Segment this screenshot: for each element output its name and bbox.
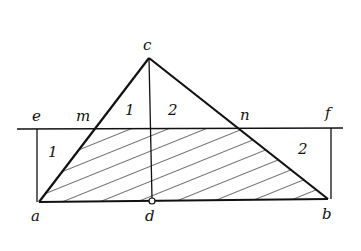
- region-label-2-right: 2: [298, 142, 308, 157]
- region-label-1-left: 1: [48, 145, 58, 160]
- label-d: d: [145, 209, 155, 224]
- point-d-marker: [149, 198, 155, 204]
- label-b: b: [322, 207, 332, 222]
- horizontal-line-ef: [17, 128, 343, 129]
- diagram-canvas: [0, 0, 361, 251]
- region-label-1-top: 1: [125, 103, 135, 118]
- label-m: m: [76, 109, 90, 124]
- label-n: n: [240, 108, 250, 123]
- region-label-2-top: 2: [168, 103, 178, 118]
- label-a: a: [31, 209, 40, 224]
- label-f: f: [325, 106, 331, 121]
- label-c: c: [143, 38, 151, 53]
- label-e: e: [32, 109, 41, 124]
